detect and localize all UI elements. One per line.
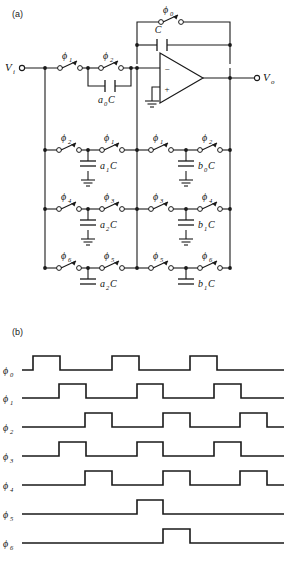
label-phi0-phase: ϕ bbox=[163, 4, 168, 15]
row3-mid-phase: ϕ bbox=[104, 250, 109, 261]
input-label-sub: i bbox=[13, 68, 15, 76]
row2-mid-sub: 3 bbox=[110, 197, 115, 204]
waveform-phi3 bbox=[22, 442, 284, 456]
label-input-phi2: ϕ 2 bbox=[103, 50, 114, 63]
label-a0C: a 0 C bbox=[98, 94, 115, 107]
row1-leftcap-sub: 1 bbox=[106, 166, 109, 173]
label-input-phi2-sub: 2 bbox=[110, 56, 114, 63]
row2-right-sub: 3 bbox=[159, 197, 164, 204]
waveform-group bbox=[22, 356, 284, 543]
row1-rightcap-unit: C bbox=[208, 160, 215, 171]
label-row3-far: ϕ 6 bbox=[202, 250, 213, 263]
label-row1-left-cap: a 1 C bbox=[100, 160, 117, 173]
waveform-label-phi0-sub: 0 bbox=[10, 371, 14, 378]
label-phi0: ϕ 0 bbox=[163, 4, 174, 17]
panel-b-timing: (b) ϕ0ϕ1ϕ2ϕ3ϕ4ϕ5ϕ6 bbox=[0, 300, 288, 562]
row2-far-phase: ϕ bbox=[202, 191, 207, 202]
row3-rightcap-sub: 1 bbox=[204, 284, 207, 291]
label-row3-right-cap: b 1 C bbox=[198, 278, 215, 291]
row3-leftcap-coef: a bbox=[100, 278, 105, 289]
label-input-phi2-phase: ϕ bbox=[103, 50, 108, 61]
output-label-sub: o bbox=[271, 78, 275, 86]
waveform-phi1 bbox=[22, 384, 284, 398]
waveform-label-phi3-phase: ϕ bbox=[3, 451, 8, 462]
row1-rightcap-coef: b bbox=[198, 160, 203, 171]
row2-right-phase: ϕ bbox=[153, 191, 158, 202]
opamp-symbol: − + bbox=[160, 53, 203, 103]
output-label-text: V bbox=[263, 71, 271, 83]
row2-rightcap-sub: 1 bbox=[204, 225, 207, 232]
panel-a-tag: (a) bbox=[12, 9, 23, 19]
output-label: V o bbox=[263, 71, 275, 86]
row1-far-phase: ϕ bbox=[202, 132, 207, 143]
row3-rightcap-unit: C bbox=[208, 278, 215, 289]
row1-right-sub: 1 bbox=[160, 138, 163, 145]
input-terminal[interactable] bbox=[19, 65, 24, 70]
row2-left-phase: ϕ bbox=[61, 191, 66, 202]
row3-right-sub: 5 bbox=[160, 256, 164, 263]
label-a0C-unit: C bbox=[108, 94, 115, 105]
waveform-phi2 bbox=[22, 413, 284, 427]
row2-left-sub: 4 bbox=[68, 197, 72, 204]
label-row3-left: ϕ 6 bbox=[61, 250, 72, 263]
panel-b-tag: (b) bbox=[12, 327, 23, 337]
waveform-label-phi5-phase: ϕ bbox=[3, 509, 8, 520]
row1-leftcap-unit: C bbox=[110, 160, 117, 171]
input-label-text: V bbox=[5, 61, 13, 73]
label-row2-right: ϕ 3 bbox=[153, 191, 164, 204]
row3-far-sub: 6 bbox=[209, 256, 213, 263]
row1-leftcap-coef: a bbox=[100, 160, 105, 171]
row1-left-sub: 2 bbox=[68, 138, 72, 145]
figure-root: − + bbox=[0, 0, 288, 562]
label-row2-left: ϕ 4 bbox=[61, 191, 72, 204]
label-row1-mid: ϕ 1 bbox=[104, 132, 114, 145]
row2-far-sub: 4 bbox=[209, 197, 213, 204]
row1-left-phase: ϕ bbox=[61, 132, 66, 143]
row1-far-sub: 2 bbox=[209, 138, 213, 145]
row3-rightcap-coef: b bbox=[198, 278, 203, 289]
label-feedback-cap: C bbox=[155, 24, 162, 35]
row3-right-phase: ϕ bbox=[153, 250, 158, 261]
label-row1-right-cap: b 0 C bbox=[198, 160, 215, 173]
input-label: V i bbox=[5, 61, 15, 76]
row2-rightcap-unit: C bbox=[208, 219, 215, 230]
waveform-label-phi4-sub: 4 bbox=[10, 486, 14, 493]
label-a0C-coef: a bbox=[98, 94, 103, 105]
row3-left-phase: ϕ bbox=[61, 250, 66, 261]
row3-leftcap-unit: C bbox=[110, 278, 117, 289]
switch-symbols bbox=[57, 15, 223, 270]
row3-mid-sub: 5 bbox=[111, 256, 115, 263]
row3-far-phase: ϕ bbox=[202, 250, 207, 261]
row1-mid-sub: 1 bbox=[111, 138, 114, 145]
waveform-label-phi0-phase: ϕ bbox=[3, 365, 8, 376]
row1-right-phase: ϕ bbox=[153, 132, 158, 143]
waveform-label-phi1-sub: 1 bbox=[10, 399, 13, 406]
label-phi0-sub: 0 bbox=[170, 10, 174, 17]
ground-icon bbox=[179, 180, 193, 186]
label-input-phi1-sub: 1 bbox=[69, 56, 72, 63]
waveform-phi0 bbox=[22, 356, 284, 370]
waveform-label-phi5-sub: 5 bbox=[10, 515, 14, 522]
label-input-phi1: ϕ 1 bbox=[62, 50, 72, 63]
waveform-label-phi6-sub: 6 bbox=[10, 544, 14, 551]
ground-icon bbox=[179, 239, 193, 245]
output-terminal[interactable] bbox=[254, 75, 259, 80]
waveform-label-phi4-phase: ϕ bbox=[3, 480, 8, 491]
label-row3-left-cap: a 2 C bbox=[100, 278, 117, 291]
label-row1-far: ϕ 2 bbox=[202, 132, 213, 145]
waveform-phi4 bbox=[22, 471, 284, 485]
opamp-minus-label: − bbox=[164, 64, 169, 74]
waveform-label-phi1-phase: ϕ bbox=[3, 393, 8, 404]
waveform-label-phi3-sub: 3 bbox=[9, 457, 14, 464]
waveform-phi5 bbox=[22, 500, 284, 514]
waveform-labels: ϕ0ϕ1ϕ2ϕ3ϕ4ϕ5ϕ6 bbox=[3, 365, 14, 551]
label-row2-left-cap: a 2 C bbox=[100, 219, 117, 232]
row3-left-sub: 6 bbox=[68, 256, 72, 263]
opamp-plus-label: + bbox=[164, 84, 169, 94]
ground-icon bbox=[81, 239, 95, 245]
label-row2-right-cap: b 1 C bbox=[198, 219, 215, 232]
waveform-phi6 bbox=[22, 529, 284, 543]
row2-rightcap-coef: b bbox=[198, 219, 203, 230]
waveform-label-phi2-phase: ϕ bbox=[3, 422, 8, 433]
waveform-label-phi6-phase: ϕ bbox=[3, 538, 8, 549]
